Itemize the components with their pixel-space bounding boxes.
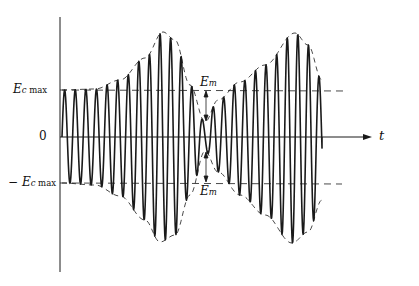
ec-max-label-main: E: [13, 82, 22, 96]
em-top-label: Em: [200, 75, 217, 89]
em-top-dimension-arrow: [204, 91, 208, 121]
em-bottom-label: Em: [200, 184, 217, 198]
ec-max-label: Ec max: [13, 82, 47, 96]
neg-ec-max-label-max: max: [35, 178, 56, 188]
ec-max-reference-line: [60, 90, 348, 91]
neg-ec-max-label-main: E: [22, 175, 31, 189]
em-top-sub: m: [209, 78, 217, 88]
modulated-carrier-wave: [62, 34, 322, 243]
em-top-main: E: [200, 75, 209, 89]
neg-ec-max-minus: −: [8, 175, 22, 189]
em-bottom-main: E: [200, 184, 209, 198]
neg-ec-max-label: − Ec max: [8, 175, 56, 189]
zero-label: 0: [39, 129, 47, 143]
ec-max-label-max: max: [27, 85, 48, 95]
em-bottom-sub: m: [209, 187, 217, 197]
waveform-plot: [0, 0, 419, 286]
upper-envelope: [62, 32, 322, 122]
time-axis-arrow-icon: [363, 134, 372, 140]
am-waveform-diagram: Ec max 0 − Ec max t Em Em: [0, 0, 419, 286]
em-bottom-dimension-arrow: [204, 152, 208, 182]
time-axis-label: t: [379, 128, 384, 143]
